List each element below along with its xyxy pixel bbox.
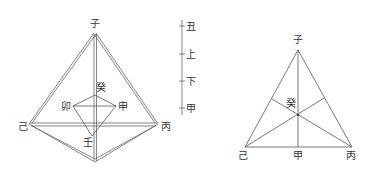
diagram-canvas: 子 己 丙 癸 卯 申 壬 丑 上 下 甲 子 己 丙 甲 癸	[0, 0, 371, 172]
right-triangle	[245, 50, 352, 147]
right-right-label: 丙	[346, 150, 356, 161]
scale-bar	[179, 20, 185, 115]
right-vertex-label: 丙	[161, 121, 171, 132]
inner-kite	[73, 95, 116, 136]
left-vertex-label: 己	[18, 121, 28, 132]
inner-bottom-label: 壬	[83, 137, 93, 148]
scale-tick-label: 上	[186, 49, 196, 60]
scale-tick-label: 甲	[186, 103, 196, 114]
inner-right-label: 申	[118, 100, 128, 112]
centroid-point	[297, 114, 299, 116]
scale-tick-label: 丑	[186, 21, 196, 32]
scale-tick-label: 下	[186, 76, 196, 87]
right-bottom-mid-label: 甲	[293, 150, 303, 161]
inner-left-label: 卯	[61, 101, 71, 112]
right-apex-label: 子	[293, 34, 303, 45]
left-apex-label: 子	[90, 18, 100, 29]
inner-top-label: 癸	[96, 81, 106, 93]
left-tetrahedron	[29, 33, 158, 162]
right-left-label: 己	[238, 150, 248, 161]
right-center-label: 癸	[286, 97, 296, 109]
